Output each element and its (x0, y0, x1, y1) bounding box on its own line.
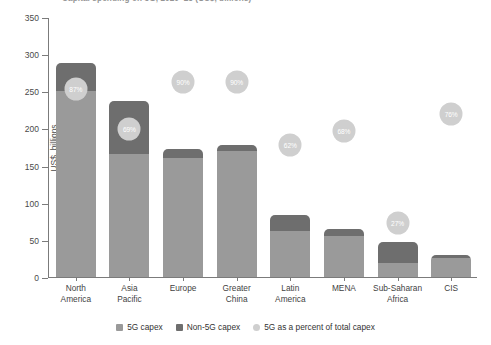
y-axis-tick (42, 18, 48, 19)
y-axis-tick (42, 167, 48, 168)
bar-slot[interactable]: 87%North America (49, 18, 103, 277)
bar-stack[interactable] (270, 215, 310, 277)
x-axis-tick (398, 277, 399, 281)
percent-bubble[interactable]: 62% (279, 133, 302, 156)
y-axis-tick (42, 278, 48, 279)
bar-slot[interactable]: 68%MENA (317, 18, 371, 277)
x-axis-line (48, 277, 477, 278)
bar-segment-non5g[interactable] (270, 215, 310, 231)
plot-area: US$, billions 050100150200250300350 87%N… (48, 18, 477, 278)
legend-item[interactable]: Non-5G capex (176, 322, 241, 332)
y-axis-tick (42, 204, 48, 205)
y-axis-label: 0 (34, 273, 39, 283)
percent-bubble-label: 27% (391, 219, 404, 226)
bar-segment-5g[interactable] (217, 151, 257, 277)
chart-container: Capital spending on 5G, 2020–25 (US$, bi… (0, 0, 491, 345)
bar-segment-5g[interactable] (431, 258, 471, 277)
percent-bubble-label: 76% (445, 110, 458, 117)
y-axis-tick (42, 92, 48, 93)
x-axis-tick (290, 277, 291, 281)
percent-bubble[interactable]: 90% (225, 71, 248, 94)
y-axis-tick (42, 55, 48, 56)
y-axis-label: 300 (25, 50, 39, 60)
percent-bubble[interactable]: 68% (332, 120, 355, 143)
bar-slot[interactable]: 76%CIS (424, 18, 478, 277)
percent-bubble-label: 90% (230, 79, 243, 86)
percent-bubble[interactable]: 87% (64, 78, 87, 101)
bar-slot[interactable]: 90%Greater China (210, 18, 264, 277)
legend-square-icon (116, 324, 123, 331)
x-axis-tick (451, 277, 452, 281)
bar-stack[interactable] (378, 242, 418, 277)
legend-circle-icon (253, 324, 260, 331)
x-axis-tick (76, 277, 77, 281)
y-axis-label: 150 (25, 162, 39, 172)
legend-label: 5G capex (127, 322, 163, 332)
bar-segment-non5g[interactable] (378, 242, 418, 263)
y-axis-label: 100 (25, 199, 39, 209)
percent-bubble-label: 87% (69, 86, 82, 93)
y-axis-label: 250 (25, 87, 39, 97)
legend-square-icon (176, 324, 183, 331)
bar-group: 87%North America69%Asia Pacific90%Europe… (49, 18, 477, 277)
bar-segment-5g[interactable] (324, 236, 364, 277)
bar-segment-5g[interactable] (270, 231, 310, 277)
x-axis-tick (237, 277, 238, 281)
bar-slot[interactable]: 69%Asia Pacific (103, 18, 157, 277)
percent-bubble[interactable]: 76% (440, 102, 463, 125)
bar-slot[interactable]: 62%Latin America (264, 18, 318, 277)
percent-bubble-label: 90% (177, 79, 190, 86)
bar-segment-5g[interactable] (378, 263, 418, 277)
y-axis-label: 200 (25, 124, 39, 134)
chart-title: Capital spending on 5G, 2020–25 (US$, bi… (62, 0, 402, 3)
chart-legend: 5G capexNon-5G capex5G as a percent of t… (0, 322, 491, 332)
percent-bubble-label: 69% (123, 126, 136, 133)
legend-item[interactable]: 5G as a percent of total capex (253, 322, 375, 332)
bar-stack[interactable] (324, 229, 364, 277)
bar-stack[interactable] (163, 149, 203, 277)
bar-segment-5g[interactable] (163, 158, 203, 277)
bar-segment-5g[interactable] (109, 154, 149, 277)
bar-stack[interactable] (217, 145, 257, 277)
bar-stack[interactable] (431, 255, 471, 277)
x-axis-tick (344, 277, 345, 281)
y-axis-label: 350 (25, 13, 39, 23)
percent-bubble[interactable]: 27% (386, 211, 409, 234)
legend-label: Non-5G capex (187, 322, 241, 332)
legend-item[interactable]: 5G capex (116, 322, 163, 332)
x-axis-tick (183, 277, 184, 281)
bar-segment-non5g[interactable] (324, 229, 364, 236)
percent-bubble-label: 62% (284, 141, 297, 148)
bar-segment-non5g[interactable] (163, 149, 203, 158)
x-axis-tick (129, 277, 130, 281)
x-axis-label: CIS (419, 283, 483, 294)
bar-slot[interactable]: 27%Sub-Saharan Africa (371, 18, 425, 277)
y-axis-label: 50 (30, 236, 39, 246)
bar-segment-5g[interactable] (56, 91, 96, 277)
bar-slot[interactable]: 90%Europe (156, 18, 210, 277)
y-axis-tick (42, 241, 48, 242)
legend-label: 5G as a percent of total capex (264, 322, 375, 332)
percent-bubble[interactable]: 90% (172, 71, 195, 94)
percent-bubble-label: 68% (337, 128, 350, 135)
y-axis-tick (42, 129, 48, 130)
percent-bubble[interactable]: 69% (118, 118, 141, 141)
